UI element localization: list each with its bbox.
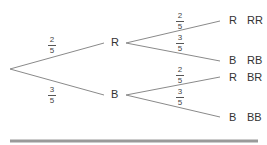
prob-bb: 35 bbox=[176, 88, 184, 107]
outcome-bb: BB bbox=[247, 112, 262, 123]
prob-rr: 25 bbox=[176, 12, 184, 31]
outcome-rb: RB bbox=[247, 55, 262, 66]
tree-lines bbox=[0, 0, 267, 145]
node-rr-leaf: R bbox=[229, 15, 237, 26]
node-br-leaf: R bbox=[229, 72, 237, 83]
node-rb-leaf: B bbox=[229, 55, 236, 66]
node-b: B bbox=[111, 89, 118, 100]
prob-first-r: 25 bbox=[48, 36, 56, 55]
prob-rb: 35 bbox=[176, 34, 184, 53]
outcome-rr: RR bbox=[247, 15, 263, 26]
node-r: R bbox=[111, 37, 119, 48]
node-bb-leaf: B bbox=[229, 112, 236, 123]
prob-first-b: 35 bbox=[48, 86, 56, 105]
outcome-br: BR bbox=[247, 72, 262, 83]
prob-br: 25 bbox=[176, 66, 184, 85]
